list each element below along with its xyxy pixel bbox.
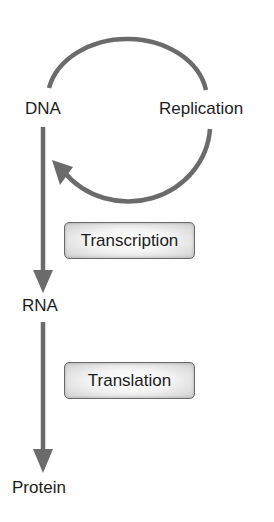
central-dogma-diagram: DNA Replication RNA Protein Transcriptio…: [0, 0, 274, 522]
node-dna: DNA: [25, 99, 61, 119]
translation-arrowhead-icon: [33, 449, 53, 473]
diagram-arrows: [0, 0, 274, 522]
node-rna: RNA: [22, 296, 58, 316]
node-replication: Replication: [159, 99, 243, 119]
process-translation: Translation: [64, 362, 195, 399]
process-transcription-label: Transcription: [81, 231, 179, 251]
process-translation-label: Translation: [88, 371, 171, 391]
node-protein: Protein: [12, 478, 66, 498]
process-transcription: Transcription: [64, 222, 195, 259]
replication-top-arc: [49, 39, 206, 90]
transcription-arrowhead-icon: [33, 270, 53, 293]
replication-bottom-arc: [64, 129, 210, 201]
